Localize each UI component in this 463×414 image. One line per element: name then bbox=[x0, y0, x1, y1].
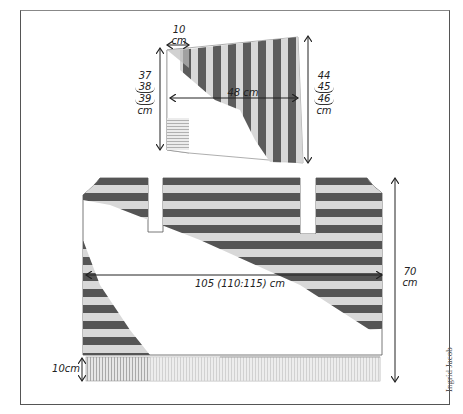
sleeve-left-height-label: 37 38 39 cm bbox=[135, 70, 155, 116]
sleeve-piece bbox=[167, 37, 303, 163]
cuff-width-label: 10 cm bbox=[170, 24, 188, 46]
body-width-label: 105 (110:115) cm bbox=[190, 279, 290, 289]
sleeve-width-label: 48 cm bbox=[218, 88, 268, 98]
knitting-schematic bbox=[0, 0, 463, 414]
body-height-label: 70 cm bbox=[400, 266, 420, 288]
sleeve-right-height-label: 44 45 46 cm bbox=[314, 70, 334, 116]
illustrator-credit: Ingrid Jacob bbox=[444, 347, 454, 392]
ribbing-height-label: 10cm bbox=[50, 364, 82, 374]
